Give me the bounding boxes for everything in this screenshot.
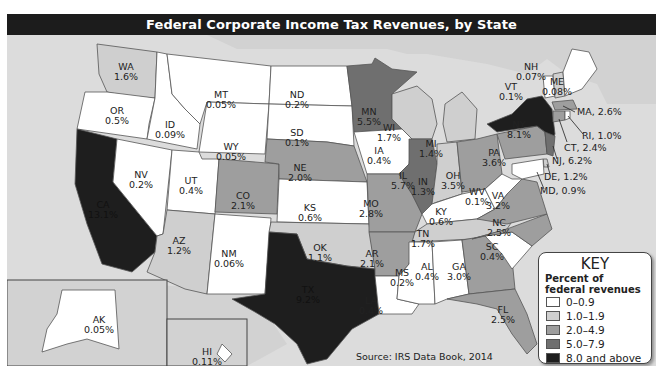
legend-item-0: 0–0.9 (539, 295, 651, 309)
source-note: Source: IRS Data Book, 2014 (356, 351, 493, 362)
label-SC-value: 0.4% (480, 251, 504, 262)
label-FL-value: 2.5% (491, 314, 515, 325)
legend-subtitle-line2: federal revenues (545, 284, 651, 295)
label-SD-value: 0.1% (285, 137, 309, 148)
label-ID-value: 0.09% (155, 129, 185, 140)
legend-item-3: 5.0–7.9 (539, 337, 651, 351)
label-WA-value: 1.6% (114, 71, 138, 82)
legend-subtitle-line1: Percent of (545, 273, 651, 284)
label-VT-value: 0.1% (499, 91, 523, 102)
label-OH-value: 3.5% (441, 180, 465, 191)
legend-item-4: 8.0 and above (539, 351, 651, 365)
label-AK-value: 0.05% (84, 324, 114, 335)
legend-label: 1.0–1.9 (566, 310, 605, 322)
state-ND (269, 66, 352, 106)
legend-swatch (546, 297, 560, 307)
label-IN-value: 1.3% (411, 186, 435, 197)
label-NV-value: 0.2% (129, 179, 153, 190)
callout-NJ: NJ, 6.2% (552, 155, 592, 166)
callout-MD: MD, 0.9% (540, 185, 586, 196)
label-OR-value: 0.5% (105, 115, 129, 126)
leader-RI (568, 116, 583, 134)
label-KY-value: 0.6% (429, 216, 453, 227)
label-ME-value: 0.08% (542, 86, 572, 97)
legend-item-1: 1.0–1.9 (539, 309, 651, 323)
state-CT (553, 111, 565, 122)
state-MI (443, 92, 477, 142)
legend-label: 5.0–7.9 (566, 338, 605, 350)
callout-CT: CT, 2.4% (564, 142, 607, 153)
legend-label: 8.0 and above (566, 352, 641, 364)
label-NC-value: 2.5% (487, 227, 511, 238)
label-MS-value: 0.2% (390, 277, 414, 288)
label-HI-value: 0.11% (192, 356, 222, 366)
label-WY-value: 0.05% (216, 151, 246, 162)
label-NM-value: 0.06% (214, 258, 244, 269)
state-NJ (545, 132, 555, 156)
label-MT-value: 0.05% (206, 99, 236, 110)
label-NE-value: 2.0% (288, 172, 312, 183)
legend-subtitle: Percent of federal revenues (539, 273, 651, 295)
legend-title: KEY (539, 256, 651, 272)
label-TN-value: 1.7% (411, 238, 435, 249)
state-NM (207, 214, 271, 294)
label-ND-value: 0.2% (285, 99, 309, 110)
leader-CT (559, 119, 567, 142)
label-OK-value: 1.1% (308, 252, 332, 263)
callout-RI: RI, 1.0% (582, 130, 622, 141)
label-KS-value: 0.6% (298, 212, 322, 223)
state-MD (512, 159, 544, 179)
label-WI-value: 1.7% (377, 132, 401, 143)
label-UT-value: 0.4% (179, 185, 203, 196)
map-legend: KEY Percent of federal revenues 0–0.9 1.… (538, 252, 652, 364)
callout-DE: DE, 1.2% (544, 171, 588, 182)
state-NE (265, 139, 367, 182)
label-CO-value: 2.1% (231, 200, 255, 211)
label-GA-value: 3.0% (447, 271, 471, 282)
label-AR-value: 2.1% (360, 258, 384, 269)
label-AZ-value: 1.2% (167, 245, 191, 256)
legend-label: 0–0.9 (566, 296, 595, 308)
map-figure: WA 1.6% OR 0.5% CA 13.1% NV 0.2% ID 0.09… (7, 14, 656, 366)
label-IA-value: 0.4% (367, 155, 391, 166)
label-PA-value: 3.6% (482, 157, 506, 168)
label-NH-value: 0.07% (516, 71, 546, 82)
label-MO-value: 2.8% (359, 208, 383, 219)
legend-swatch (546, 325, 560, 335)
label-LA-value: 0.4% (359, 305, 383, 316)
label-AL-value: 0.4% (415, 271, 439, 282)
label-WV-value: 0.1% (465, 196, 489, 207)
label-VA-value: 3.2% (486, 200, 510, 211)
label-CA-value: 13.1% (88, 209, 118, 220)
legend-swatch (546, 339, 560, 349)
legend-label: 2.0–4.9 (566, 324, 605, 336)
map-title: Federal Corporate Income Tax Revenues, b… (7, 14, 656, 35)
label-NY-value: 8.1% (507, 129, 531, 140)
label-MI-value: 1.4% (419, 148, 443, 159)
state-RI (565, 111, 570, 120)
legend-swatch (546, 311, 560, 321)
legend-item-2: 2.0–4.9 (539, 323, 651, 337)
state-MA (552, 100, 577, 110)
label-TX-value: 9.2% (296, 294, 320, 305)
state-KS (277, 179, 369, 224)
label-MN-value: 5.5% (357, 116, 381, 127)
state-DE (543, 159, 549, 167)
callout-MA: MA, 2.6% (577, 106, 622, 117)
legend-swatch (546, 353, 560, 363)
